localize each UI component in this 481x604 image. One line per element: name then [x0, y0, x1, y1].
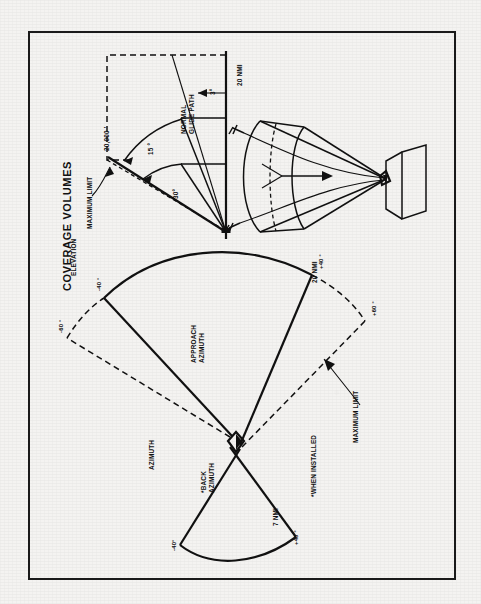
azimuth-view-graphic — [30, 33, 458, 582]
angle-approach-left-outer: -60 ° — [58, 319, 64, 333]
approach-azimuth-line-2: AZIMUTH — [198, 325, 206, 363]
back-azimuth-line-1: *BACK — [200, 463, 208, 493]
azimuth-footnote: *WHEN INSTALLED — [311, 435, 318, 497]
back-range-label: 7 NMI — [273, 508, 280, 526]
angle-back-right: +40 ° — [293, 530, 299, 545]
angle-back-left: -40° — [171, 539, 177, 551]
back-azimuth-label: *BACK AZIMUTH — [200, 463, 216, 493]
approach-azimuth-line-1: APPROACH — [190, 325, 198, 363]
back-azimuth-line-2: AZIMUTH — [208, 463, 216, 493]
angle-approach-right-outer: +60 ° — [371, 301, 377, 316]
angle-approach-right-inner: +40 ° — [318, 254, 324, 269]
azimuth-section-label: AZIMUTH — [149, 440, 156, 470]
figure-border: COVERAGE VOLUMES — [28, 31, 456, 580]
angle-approach-left-inner: -40 ° — [96, 277, 102, 291]
page-background: COVERAGE VOLUMES — [0, 0, 481, 604]
approach-azimuth-label: APPROACH AZIMUTH — [190, 325, 206, 363]
azimuth-max-limit-label: MAXIMUM LIMIT — [353, 391, 360, 443]
